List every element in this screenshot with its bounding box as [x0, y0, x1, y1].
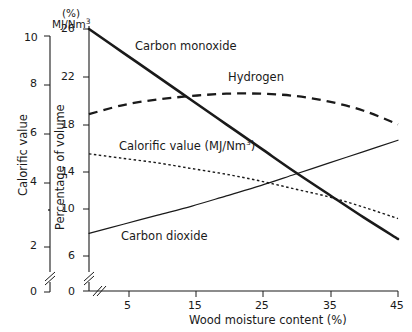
series-line-carbon-monoxide — [89, 29, 398, 239]
left-y-axis-break-1 — [45, 272, 55, 281]
series-line-carbon-dioxide — [89, 140, 398, 233]
chart-figure: MJ/Nm3 10 8 6 4 2 0 Calorific value (%) … — [0, 0, 412, 332]
plot-area — [0, 0, 412, 332]
main-y-axis-break-1 — [84, 272, 94, 281]
series-line-hydrogen — [89, 93, 398, 124]
